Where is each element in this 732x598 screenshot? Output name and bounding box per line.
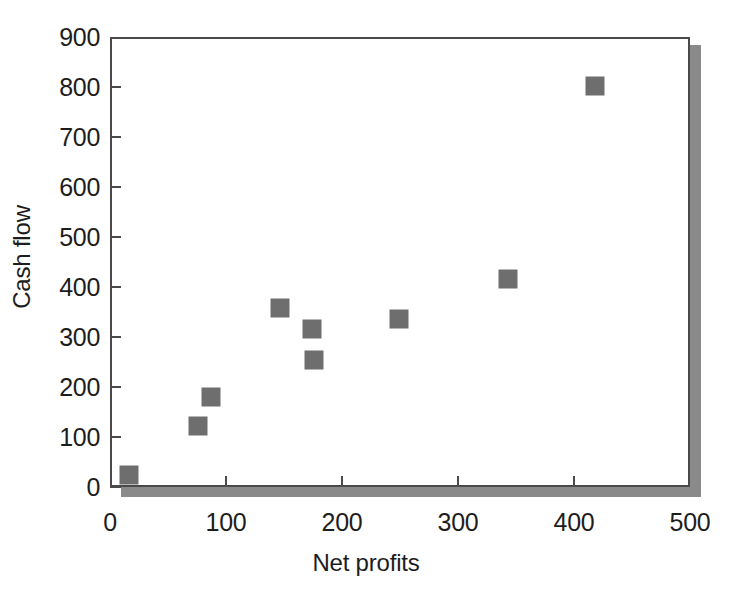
y-axis-title: Cash flow [8, 147, 36, 367]
data-point [201, 388, 220, 407]
data-point [271, 299, 290, 318]
data-point [498, 269, 517, 288]
x-axis-tick-label: 200 [292, 510, 392, 535]
x-axis-tick-label: 400 [524, 510, 624, 535]
x-axis-tick [573, 476, 575, 487]
y-axis-tick [110, 136, 121, 138]
y-axis-tick-label: 900 [8, 25, 100, 50]
y-axis-tick [110, 186, 121, 188]
x-axis-tick-label: 300 [408, 510, 508, 535]
data-point [120, 466, 139, 485]
y-axis-tick [110, 486, 121, 488]
data-point [389, 309, 408, 328]
y-axis-tick [110, 286, 121, 288]
y-axis-tick [110, 336, 121, 338]
data-point [585, 76, 604, 95]
data-point [302, 320, 321, 339]
y-axis-tick [110, 86, 121, 88]
y-axis-tick-label: 800 [8, 75, 100, 100]
plot-area [112, 39, 688, 485]
x-axis-tick-label: 500 [640, 510, 732, 535]
x-axis-tick-label: 0 [60, 510, 160, 535]
y-axis-tick-label: 100 [8, 425, 100, 450]
plot-frame [110, 37, 690, 487]
x-axis-tick [341, 476, 343, 487]
scatter-chart: 0100200300400500600700800900 Cash flow 0… [0, 0, 732, 598]
x-axis-tick-label: 100 [176, 510, 276, 535]
data-point [188, 417, 207, 436]
x-axis-title: Net profits [0, 549, 732, 577]
y-axis-tick-label: 200 [8, 375, 100, 400]
y-axis-tick-label: 700 [8, 125, 100, 150]
y-axis-tick-label: 0 [8, 475, 100, 500]
data-point [304, 351, 323, 370]
y-axis-tick [110, 236, 121, 238]
y-axis-tick [110, 386, 121, 388]
x-axis-tick [225, 476, 227, 487]
x-axis-tick [457, 476, 459, 487]
y-axis-tick [110, 436, 121, 438]
